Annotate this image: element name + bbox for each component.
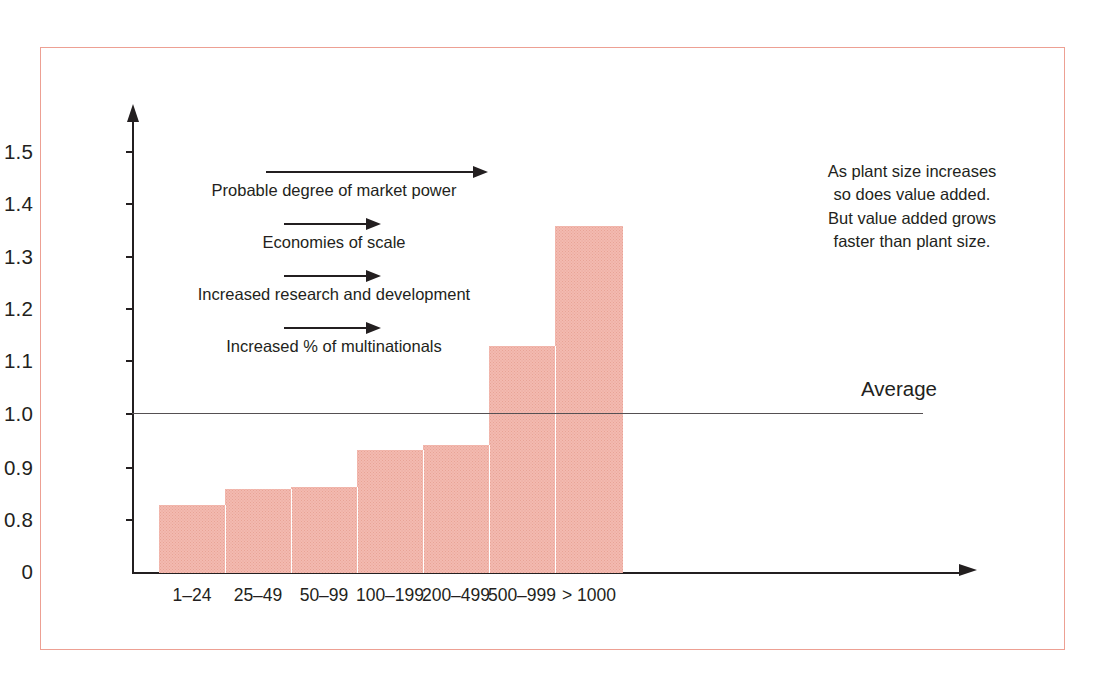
y-tick-label: 0 [21, 560, 33, 584]
x-category-label: 50–99 [291, 585, 357, 606]
bar-1-24 [159, 505, 225, 573]
caption-line: But value added grows [801, 207, 1023, 230]
caption-line: faster than plant size. [801, 230, 1023, 253]
x-category-label: > 1000 [555, 585, 623, 606]
bar-separator [357, 487, 359, 573]
annotation-research-development: Increased research and development [153, 270, 515, 304]
average-reference-line [132, 413, 923, 414]
y-axis-line [132, 120, 134, 574]
x-category-label: 100–199 [355, 585, 425, 606]
bar-25-49 [225, 489, 291, 573]
x-category-label: 1–24 [159, 585, 225, 606]
y-axis-arrow-icon [127, 104, 139, 122]
bar-separator [489, 445, 491, 573]
y-tick-mark [126, 203, 134, 205]
annotation-arrow-icon [266, 166, 491, 178]
bar-separator [291, 489, 293, 573]
annotation-arrow-icon [284, 322, 384, 334]
bar-separator [555, 346, 557, 573]
y-tick-label: 1.5 [4, 140, 33, 164]
x-axis-arrow-icon [959, 564, 977, 576]
annotation-market-power: Probable degree of market power [169, 166, 499, 200]
annotation-arrow-icon [284, 270, 384, 282]
x-category-label: 200–499 [421, 585, 491, 606]
x-category-label: 500–999 [487, 585, 557, 606]
annotation-label: Increased % of multinationals [196, 337, 472, 356]
bar-200-499 [423, 445, 489, 573]
x-category-label: 25–49 [225, 585, 291, 606]
y-tick-label: 1.2 [4, 297, 33, 321]
y-tick-label: 0.8 [4, 508, 33, 532]
bar-500-999 [489, 346, 555, 573]
average-label: Average [861, 377, 937, 401]
annotation-arrow-icon [284, 218, 384, 230]
bar-50-99 [291, 487, 357, 573]
y-tick-label: 1.1 [4, 349, 33, 373]
y-tick-mark [126, 360, 134, 362]
annotation-economies-of-scale: Economies of scale [234, 218, 434, 252]
y-tick-mark [126, 519, 134, 521]
y-tick-label: 0.9 [4, 456, 33, 480]
annotation-label: Economies of scale [234, 233, 434, 252]
y-tick-mark [126, 467, 134, 469]
y-tick-label: 1.3 [4, 245, 33, 269]
figure-frame: 1.5 1.4 1.3 1.2 1.1 1.0 0.9 0.8 0 Aver [40, 47, 1065, 650]
annotation-label: Increased research and development [153, 285, 515, 304]
annotation-multinationals: Increased % of multinationals [196, 322, 472, 356]
y-tick-label: 1.4 [4, 192, 33, 216]
annotation-label: Probable degree of market power [169, 181, 499, 200]
y-tick-label: 1.0 [4, 402, 33, 426]
bar-gt-1000 [555, 226, 623, 573]
chart-plot-area: 1.5 1.4 1.3 1.2 1.1 1.0 0.9 0.8 0 Aver [41, 48, 1066, 651]
caption-line: As plant size increases [801, 160, 1023, 183]
bar-100-199 [357, 450, 423, 573]
caption-block: As plant size increases so does value ad… [801, 160, 1023, 254]
caption-line: so does value added. [801, 183, 1023, 206]
bar-separator [225, 505, 227, 573]
bar-separator [423, 450, 425, 573]
y-tick-mark [126, 256, 134, 258]
y-tick-mark [126, 308, 134, 310]
y-tick-mark [126, 151, 134, 153]
